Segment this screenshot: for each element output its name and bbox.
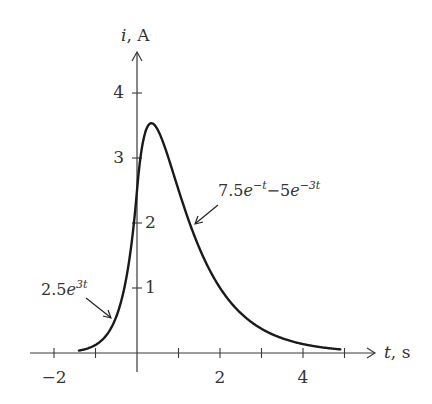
annotation-left-pointer: [86, 298, 110, 317]
y-tick-label-3: 3: [113, 147, 124, 167]
x-tick-label-2: 2: [215, 367, 226, 387]
y-axis-title: i, A: [121, 25, 150, 45]
y-tick-label-4: 4: [113, 82, 124, 102]
x-axis-title: t, s: [384, 342, 410, 362]
y-tick-label-1: 1: [145, 277, 156, 297]
annotation-right-pointer: [196, 205, 218, 223]
y-tick-label-2: 2: [145, 212, 156, 232]
annotation-right-label: 7.5e−t−5e−3t: [218, 179, 321, 200]
annotation-left-label: 2.5e3t: [41, 278, 88, 299]
chart-figure: −2 2 4 4 3 2 1 i, A t, s 2.5e3t 7.5e−t−5…: [0, 0, 432, 404]
x-tick-label-4: 4: [298, 367, 309, 387]
chart-svg: −2 2 4 4 3 2 1 i, A t, s 2.5e3t 7.5e−t−5…: [0, 0, 432, 404]
x-tick-label-neg2: −2: [41, 367, 66, 387]
